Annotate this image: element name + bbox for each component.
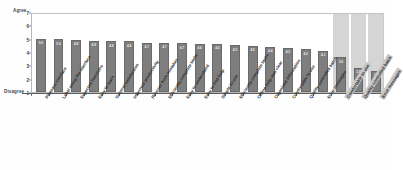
- y-tick-label: 3: [0, 64, 29, 69]
- bar-value-label: 4.5: [233, 48, 237, 52]
- bar-value-label: 4.6: [215, 46, 219, 50]
- bar-value-label: 4.4: [268, 49, 272, 53]
- bar: 5.0: [36, 39, 46, 92]
- bar-value-label: 4.6: [198, 46, 202, 50]
- bar-value-label: 4.7: [162, 45, 166, 49]
- x-tick-mark: [31, 93, 32, 96]
- plot-area: 5.05.04.94.94.84.84.74.74.74.64.64.54.54…: [31, 13, 384, 93]
- bar-value-label: 3.6: [339, 60, 343, 64]
- bar-value-label: 4.9: [74, 42, 78, 46]
- y-tick-label: 2: [0, 77, 29, 82]
- bar-value-label: 4.2: [303, 52, 307, 56]
- bar-value-label: 5.0: [39, 41, 43, 45]
- bar-value-label: 4.5: [250, 48, 254, 52]
- y-tick-label: 7: [0, 11, 29, 16]
- bar-value-label: 4.7: [145, 45, 149, 49]
- bar-value-label: 4.7: [180, 46, 184, 50]
- y-tick-label: 5: [0, 37, 29, 42]
- y-tick-label: 4: [0, 51, 29, 56]
- bar-value-label: 5.0: [56, 42, 60, 46]
- bar-value-label: 4.9: [92, 43, 96, 47]
- bar-value-label: 4.8: [109, 44, 113, 48]
- bar-value-label: 4.8: [127, 44, 131, 48]
- bar-value-label: 4.3: [286, 50, 290, 54]
- bar-value-label: 4.1: [321, 53, 325, 57]
- y-tick-label: 6: [0, 24, 29, 29]
